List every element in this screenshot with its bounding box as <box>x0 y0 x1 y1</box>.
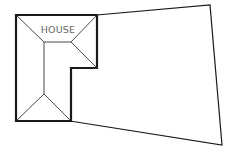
house-label: HOUSE <box>41 24 76 35</box>
site-plan-diagram: HOUSE <box>0 0 231 149</box>
yard-boundary <box>70 5 222 145</box>
roof-valley-notch <box>71 42 97 68</box>
roof-hip-bottom-left <box>16 94 44 121</box>
roof-hip-bottom-right <box>44 94 71 121</box>
